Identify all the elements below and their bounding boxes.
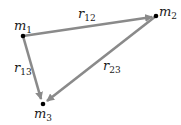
mass-label-m2: m2 — [159, 4, 177, 21]
mass-point-m1 — [21, 34, 26, 39]
vector-label-r12: r12 — [78, 6, 96, 23]
vector-label-r23: r23 — [103, 58, 121, 75]
mass-label-m3: m3 — [34, 106, 52, 123]
three-body-diagram: m1 m2 m3 r12 r13 r23 — [0, 0, 181, 125]
mass-label-m1: m1 — [14, 18, 32, 35]
mass-point-m2 — [154, 14, 159, 19]
